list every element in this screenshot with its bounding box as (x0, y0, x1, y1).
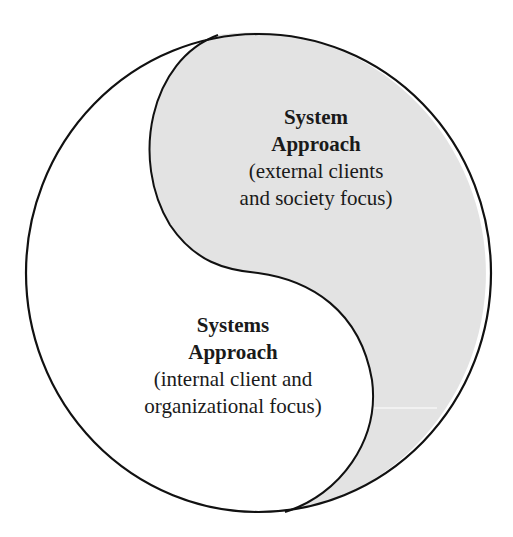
region-desc-line2: organizational focus) (118, 393, 348, 420)
region-desc-line2: and society focus) (206, 185, 426, 212)
region-title-line1: System (206, 104, 426, 131)
yin-yang-diagram (0, 0, 513, 537)
region-label-internal: Systems Approach (internal client and or… (118, 312, 348, 420)
region-title-line2: Approach (206, 131, 426, 158)
region-title-line2: Approach (118, 339, 348, 366)
region-label-external: System Approach (external clients and so… (206, 104, 426, 212)
region-desc-line1: (internal client and (118, 366, 348, 393)
region-desc-line1: (external clients (206, 158, 426, 185)
region-title-line1: Systems (118, 312, 348, 339)
